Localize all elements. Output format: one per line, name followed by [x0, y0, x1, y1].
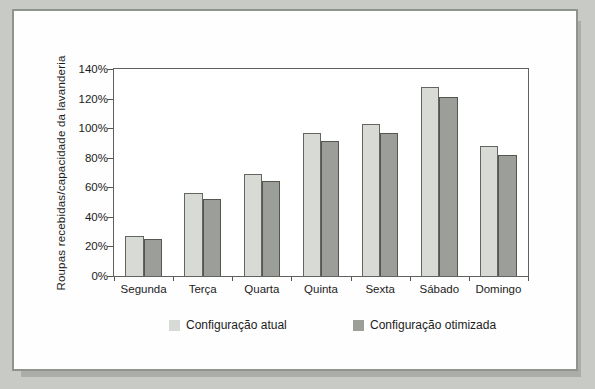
legend-swatch-icon: [353, 320, 364, 331]
bar-series2-sábado: [439, 97, 457, 276]
figure-box: Roupas recebidas/capacidade da lavanderi…: [12, 9, 578, 371]
bar-series1-sábado: [421, 87, 439, 276]
bar-series2-segunda: [144, 239, 162, 276]
bar-series1-sexta: [362, 124, 380, 276]
x-tick-mark: [528, 277, 529, 281]
y-tick-label: 80%: [66, 151, 108, 165]
y-tick-mark: [107, 158, 113, 159]
y-tick-mark: [107, 187, 113, 188]
x-tick-mark: [291, 277, 292, 281]
y-tick-mark: [107, 99, 113, 100]
y-tick-label: 120%: [66, 92, 108, 106]
legend-item-2: Configuração otimizada: [353, 318, 496, 332]
x-tick-mark: [232, 277, 233, 281]
legend-item-1: Configuração atual: [169, 318, 287, 332]
y-tick-label: 60%: [66, 180, 108, 194]
bar-series2-sexta: [380, 133, 398, 276]
bar-series1-quinta: [303, 133, 321, 276]
y-tick-label: 100%: [66, 121, 108, 135]
y-tick-mark: [107, 246, 113, 247]
legend-swatch-icon: [169, 320, 180, 331]
y-tick-mark: [107, 69, 113, 70]
bar-series1-segunda: [125, 236, 143, 276]
y-tick-mark: [107, 128, 113, 129]
x-tick-mark: [351, 277, 352, 281]
bar-series1-domingo: [480, 146, 498, 276]
bar-series1-quarta: [244, 174, 262, 276]
y-tick-label: 20%: [66, 239, 108, 253]
bar-series2-quarta: [262, 181, 280, 276]
bar-series1-terça: [184, 193, 202, 276]
y-tick-label: 40%: [66, 210, 108, 224]
page: { "colors": { "page_background": "#c8cac…: [0, 0, 595, 389]
legend-label: Configuração otimizada: [370, 318, 496, 332]
bar-series2-terça: [203, 199, 221, 276]
y-tick-label: 140%: [66, 62, 108, 76]
y-tick-mark: [107, 217, 113, 218]
plot-area: [113, 68, 529, 277]
legend-label: Configuração atual: [186, 318, 287, 332]
y-tick-mark: [107, 276, 113, 277]
bar-series2-quinta: [321, 141, 339, 276]
bar-series2-domingo: [498, 155, 516, 276]
x-tick-mark: [173, 277, 174, 281]
x-tick-mark: [469, 277, 470, 281]
y-tick-label: 0%: [66, 269, 108, 283]
x-tick-mark: [410, 277, 411, 281]
x-tick-mark: [114, 277, 115, 281]
x-axis-label-domingo: Domingo: [463, 282, 533, 296]
